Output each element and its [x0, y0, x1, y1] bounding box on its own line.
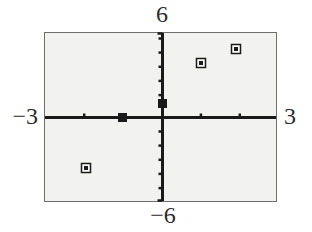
plot-canvas	[0, 0, 312, 232]
data-point-open-square	[82, 164, 91, 173]
data-point-filled-square	[158, 99, 167, 108]
data-point-filled-square	[118, 113, 127, 122]
axis-label-top: 6	[156, 2, 168, 26]
axis-label-bottom: −6	[150, 203, 176, 227]
data-point-open-square	[197, 59, 206, 68]
axis-label-right: 3	[284, 104, 296, 128]
data-point-open-square	[232, 45, 241, 54]
scatter-plot: 6 −6 −3 3	[0, 0, 312, 232]
axis-label-left: −3	[12, 104, 38, 128]
